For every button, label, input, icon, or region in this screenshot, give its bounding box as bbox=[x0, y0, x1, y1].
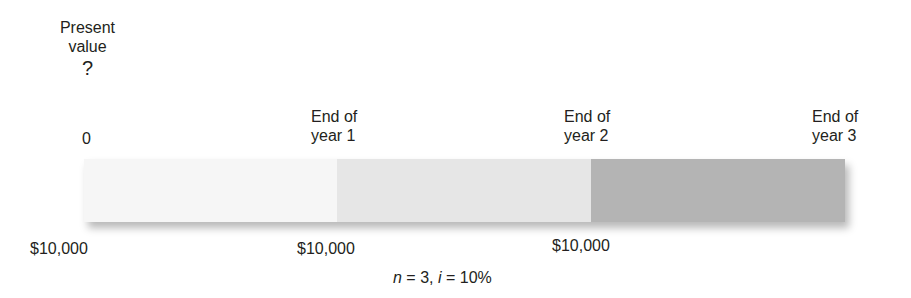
timeline-point-year-3: End of year 3 bbox=[812, 107, 858, 145]
present-value-label-line1: Present bbox=[40, 18, 135, 37]
cash-flow-amount-1: $10,000 bbox=[297, 239, 355, 258]
timeline-segment-year-2 bbox=[337, 159, 591, 222]
parameters-caption: n = 3, i = 10% bbox=[393, 268, 492, 287]
n-value: = 3, bbox=[402, 269, 438, 286]
cash-flow-amount-2: $10,000 bbox=[552, 236, 610, 255]
timeline-point-label: 0 bbox=[82, 129, 91, 148]
present-value-header: Present value ? bbox=[40, 18, 135, 79]
timeline-point-label-line2: year 3 bbox=[812, 126, 858, 145]
timeline-point-0: 0 bbox=[82, 129, 91, 148]
cash-flow-amount-0: $10,000 bbox=[30, 239, 88, 258]
timeline-bar bbox=[84, 159, 845, 222]
unknown-value-question-mark: ? bbox=[40, 57, 135, 79]
timeline-point-label-line1: End of bbox=[812, 107, 858, 126]
i-value: = 10% bbox=[442, 269, 492, 286]
present-value-label-line2: value bbox=[40, 37, 135, 56]
timeline-point-label-line2: year 1 bbox=[311, 126, 357, 145]
timeline-point-year-1: End of year 1 bbox=[311, 107, 357, 145]
timeline-point-label-line2: year 2 bbox=[564, 126, 610, 145]
timeline-segment-year-3 bbox=[591, 159, 845, 222]
n-symbol: n bbox=[393, 269, 402, 286]
timeline-point-label-line1: End of bbox=[564, 107, 610, 126]
timeline-segment-year-1 bbox=[84, 159, 337, 222]
timeline-point-label-line1: End of bbox=[311, 107, 357, 126]
timeline-point-year-2: End of year 2 bbox=[564, 107, 610, 145]
